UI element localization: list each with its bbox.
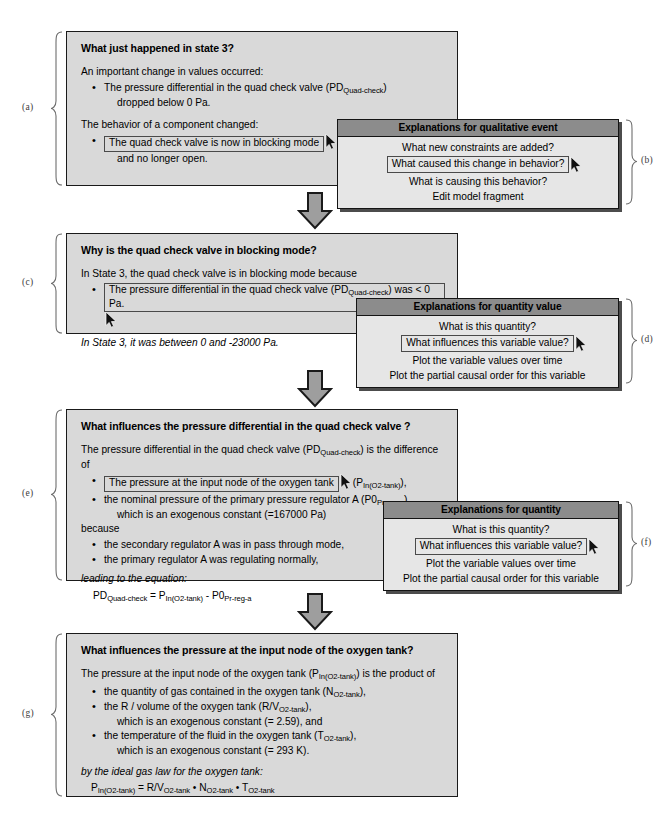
g-eq-lhs-sub: In(O2-tank) bbox=[98, 786, 135, 795]
panel-e-after-post: ), bbox=[400, 477, 406, 488]
panel-g-b2-line2: which is an exogenous constant (= 2.59),… bbox=[104, 715, 445, 728]
panel-a-bullet1-line2: dropped below 0 Pa. bbox=[104, 96, 445, 109]
menu-item-what-influences-value[interactable]: What influences this variable value? bbox=[362, 334, 613, 352]
g-eq-t1-sub: O2-tank bbox=[164, 786, 190, 795]
panel-g-equation-intro: by the ideal gas law for the oxygen tank… bbox=[81, 765, 445, 778]
menu-f-title: Explanations for quantity bbox=[384, 502, 618, 519]
panel-g-line1-pre: The pressure at the input node of the ox… bbox=[81, 668, 319, 679]
menu-b-title: Explanations for qualitative event bbox=[338, 120, 618, 137]
menu-item-label: What influences this variable value? bbox=[401, 335, 574, 351]
list-item: the quantity of gas contained in the oxy… bbox=[91, 685, 445, 700]
menu-item-what-causing-behavior[interactable]: What is causing this behavior? bbox=[343, 174, 613, 189]
menu-item-what-influences-value[interactable]: What influences this variable value? bbox=[389, 537, 613, 555]
panel-a-bullet1-pre: The pressure differential in the quad ch… bbox=[104, 82, 343, 93]
menu-item-new-constraints[interactable]: What new constraints are added? bbox=[343, 140, 613, 155]
menu-item-plot-values-over-time[interactable]: Plot the variable values over time bbox=[389, 556, 613, 571]
panel-e-line1-pre: The pressure differential in the quad ch… bbox=[81, 444, 320, 455]
panel-g-b2-sub: O2-tank bbox=[279, 705, 305, 714]
brace-f bbox=[624, 501, 638, 591]
menu-d-items: What is this quantity? What influences t… bbox=[357, 316, 618, 387]
brace-g bbox=[50, 633, 64, 801]
eq-rhs1-sub: In(O2-tank) bbox=[166, 593, 203, 602]
selected-clause-a[interactable]: The quad check valve is now in blocking … bbox=[104, 136, 324, 152]
panel-g-b1-pre: the quantity of gas contained in the oxy… bbox=[104, 686, 333, 697]
panel-e-equation: PDQuad-check = PIn(O2-tank) - P0Pr-reg-a bbox=[81, 589, 445, 604]
menu-quantity[interactable]: Explanations for quantity What is this q… bbox=[383, 501, 619, 591]
mouse-pointer-icon bbox=[575, 336, 588, 352]
eq-lhs-pre: PD bbox=[93, 590, 107, 601]
g-eq-eq: = R/V bbox=[135, 782, 164, 793]
panel-a-bullet1-post: ) bbox=[383, 82, 386, 93]
panel-c-selected-sub: Quad-check bbox=[348, 288, 388, 297]
mouse-pointer-icon bbox=[588, 539, 601, 555]
brace-a bbox=[50, 31, 64, 190]
panel-label-d: (d) bbox=[641, 334, 653, 344]
panel-e-line1: The pressure differential in the quad ch… bbox=[81, 443, 445, 471]
g-eq-dot2: • T bbox=[233, 782, 248, 793]
down-block-arrow-icon bbox=[297, 593, 333, 635]
down-block-arrow-icon bbox=[297, 370, 333, 412]
brace-c bbox=[50, 233, 64, 338]
panel-a-bullet1-sub: Quad-check bbox=[343, 86, 383, 95]
mouse-pointer-icon bbox=[570, 157, 583, 173]
g-eq-t2-sub: O2-tank bbox=[207, 786, 233, 795]
g-eq-t3-sub: O2-tank bbox=[248, 786, 274, 795]
panel-e-bullet2-pre: the nominal pressure of the primary pres… bbox=[104, 494, 377, 505]
panel-label-g: (g) bbox=[22, 708, 34, 718]
selected-clause-e[interactable]: The pressure at the input node of the ox… bbox=[104, 476, 339, 492]
panel-c-line1: In State 3, the quad check valve is in b… bbox=[81, 267, 445, 280]
eq-rhs-op: - P0 bbox=[203, 590, 225, 601]
list-item: the temperature of the fluid in the oxyg… bbox=[91, 729, 445, 757]
mouse-pointer-icon bbox=[340, 474, 353, 490]
brace-d bbox=[624, 298, 638, 388]
g-eq-lhs-pre: P bbox=[91, 782, 98, 793]
panel-g-b2-post: ), bbox=[305, 701, 311, 712]
panel-a-values-list: The pressure differential in the quad ch… bbox=[81, 81, 445, 109]
menu-qualitative-event[interactable]: Explanations for qualitative event What … bbox=[337, 119, 619, 209]
menu-item-label: What caused this change in behavior? bbox=[387, 156, 570, 172]
panel-g-line1-sub: In(O2-tank) bbox=[319, 672, 356, 681]
menu-item-plot-partial-causal-order[interactable]: Plot the partial causal order for this v… bbox=[362, 368, 613, 383]
list-item: the R / volume of the oxygen tank (R/VO2… bbox=[91, 700, 445, 728]
panel-g-influence-list: the quantity of gas contained in the oxy… bbox=[81, 685, 445, 758]
menu-quantity-value[interactable]: Explanations for quantity value What is … bbox=[356, 298, 619, 388]
menu-item-plot-values-over-time[interactable]: Plot the variable values over time bbox=[362, 353, 613, 368]
g-eq-dot1: • N bbox=[190, 782, 207, 793]
menu-f-items: What is this quantity? What influences t… bbox=[384, 519, 618, 590]
menu-item-label: What influences this variable value? bbox=[415, 538, 588, 554]
panel-label-a: (a) bbox=[22, 102, 33, 112]
panel-c-question: Why is the quad check valve in blocking … bbox=[81, 244, 445, 258]
panel-g-question: What influences the pressure at the inpu… bbox=[81, 644, 445, 658]
menu-item-plot-partial-causal-order[interactable]: Plot the partial causal order for this v… bbox=[389, 571, 613, 586]
menu-item-edit-model-fragment[interactable]: Edit model fragment bbox=[343, 189, 613, 204]
panel-g-equation: PIn(O2-tank) = R/VO2-tank • NO2-tank • T… bbox=[81, 781, 445, 796]
panel-label-e: (e) bbox=[22, 488, 33, 498]
panel-g-b3-sub: O2-tank bbox=[324, 734, 350, 743]
panel-e-question: What influences the pressure differentia… bbox=[81, 420, 445, 434]
brace-e bbox=[50, 409, 64, 585]
panel-g-b3-pre: the temperature of the fluid in the oxyg… bbox=[104, 730, 324, 741]
eq-lhs-sub: Quad-check bbox=[107, 593, 147, 602]
panel-g-b3-post: ), bbox=[350, 730, 356, 741]
menu-item-what-caused-change[interactable]: What caused this change in behavior? bbox=[343, 155, 613, 173]
menu-b-items: What new constraints are added? What cau… bbox=[338, 137, 618, 208]
panel-label-b: (b) bbox=[641, 155, 653, 165]
panel-a-line1: An important change in values occurred: bbox=[81, 65, 445, 78]
brace-b bbox=[624, 119, 638, 209]
panel-g-b1-sub: O2-tank bbox=[333, 689, 359, 698]
panel-label-f: (f) bbox=[641, 537, 651, 547]
panel-g-line1: The pressure at the input node of the ox… bbox=[81, 667, 445, 682]
panel-a-question: What just happened in state 3? bbox=[81, 42, 445, 56]
menu-d-title: Explanations for quantity value bbox=[357, 299, 618, 316]
figure-canvas: What just happened in state 3? An import… bbox=[0, 0, 672, 821]
panel-g-b3-line2: which is an exogenous constant (= 293 K)… bbox=[104, 744, 445, 757]
panel-g-b2-pre: the R / volume of the oxygen tank (R/V bbox=[104, 701, 279, 712]
panel-e-line1-sub: Quad-check bbox=[320, 448, 360, 457]
eq-mid: = P bbox=[147, 590, 165, 601]
eq-rhs2-sub: Pr-reg-a bbox=[224, 593, 251, 602]
panel-g-line1-post: ) is the product of bbox=[356, 668, 435, 679]
panel-g-b1-post: ), bbox=[360, 686, 366, 697]
list-item: The pressure at the input node of the ox… bbox=[91, 474, 445, 492]
menu-item-what-is-quantity[interactable]: What is this quantity? bbox=[389, 522, 613, 537]
menu-item-what-is-quantity[interactable]: What is this quantity? bbox=[362, 319, 613, 334]
